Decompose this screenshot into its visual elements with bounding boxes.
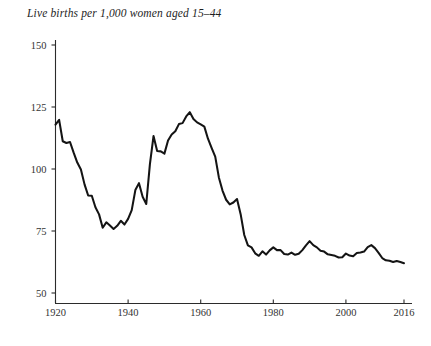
y-tick-label-100: 100 — [31, 164, 47, 175]
x-axis-tick-marks — [56, 300, 405, 304]
y-axis-tick-marks — [52, 45, 56, 293]
x-tick-label-1920: 1920 — [45, 307, 66, 318]
line-chart-plot: 5075100125150 192019401960198020002016 — [0, 0, 431, 346]
chart-figure: Live births per 1,000 women aged 15–44 5… — [0, 0, 431, 346]
x-tick-label-1980: 1980 — [263, 307, 284, 318]
y-tick-label-125: 125 — [31, 102, 47, 113]
x-tick-label-2016: 2016 — [394, 307, 415, 318]
x-tick-label-1940: 1940 — [118, 307, 139, 318]
birth-rate-series-line — [56, 112, 405, 263]
y-tick-label-75: 75 — [36, 226, 47, 237]
x-axis-tick-labels: 192019401960198020002016 — [45, 307, 415, 318]
x-tick-label-1960: 1960 — [190, 307, 211, 318]
y-axis-tick-labels: 5075100125150 — [31, 40, 47, 299]
x-tick-label-2000: 2000 — [335, 307, 356, 318]
y-tick-label-150: 150 — [31, 40, 47, 51]
y-tick-label-50: 50 — [36, 288, 47, 299]
